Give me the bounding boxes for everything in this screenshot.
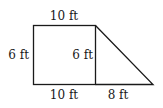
label-top: 10 ft [50,9,79,23]
label-bottom-triangle: 8 ft [108,88,129,102]
label-bottom-rect: 10 ft [50,88,79,102]
label-inner-vertical: 6 ft [72,48,93,62]
label-left: 6 ft [8,48,29,62]
composite-shape-diagram: 10 ft 6 ft 6 ft 10 ft 8 ft [0,0,163,108]
shape-outline [34,26,154,85]
triangle [96,26,154,85]
